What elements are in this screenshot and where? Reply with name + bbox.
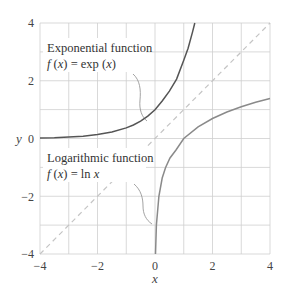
y-tick-neg2: −2 [21,190,34,204]
y-tick-4: 4 [28,16,34,30]
x-axis-label: x [151,271,158,286]
y-tick-neg4: −4 [21,247,34,261]
exp-annotation-title: Exponential function [47,41,153,55]
y-tick-0: 0 [28,132,34,146]
x-tick-neg2: −2 [91,259,104,273]
x-tick-neg4: −4 [34,259,47,273]
log-annotation-formula: f (x) = ln x [47,167,100,181]
y-axis-label: y [14,131,22,146]
log-pointer [134,184,152,224]
x-tick-2: 2 [210,259,216,273]
log-annotation-title: Logarithmic function [47,151,154,165]
y-tick-2: 2 [28,74,34,88]
exp-annotation-formula: f (x) = exp (x) [47,57,116,71]
function-plot: 4 2 0 −2 −4 −4 −2 0 2 4 x y Exponential … [0,0,287,296]
x-tick-4: 4 [267,259,273,273]
